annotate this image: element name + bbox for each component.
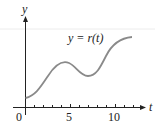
x-ticks xyxy=(35,104,134,108)
x-axis-arrow-icon xyxy=(140,105,146,110)
y-axis-label: y xyxy=(21,2,28,16)
tick-label-5: 5 xyxy=(66,110,72,124)
chart: y t y = r(t) 0 5 10 xyxy=(0,0,155,129)
tick-label-10: 10 xyxy=(108,110,120,124)
t-axis-label: t xyxy=(149,100,153,114)
curve-label: y = r(t) xyxy=(67,31,103,45)
curve-r-of-t xyxy=(26,37,133,98)
y-axis-arrow-icon xyxy=(23,16,28,22)
tick-label-0: 0 xyxy=(16,110,22,124)
